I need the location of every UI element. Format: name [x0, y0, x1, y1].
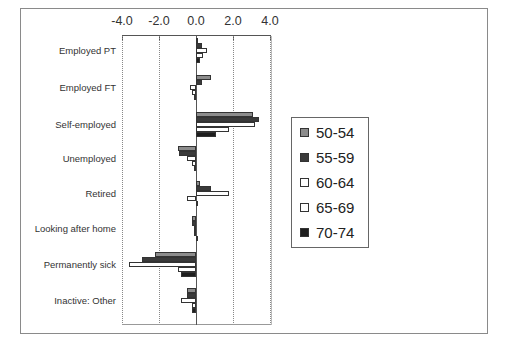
legend: 50-5455-5960-6465-6970-74	[291, 117, 369, 248]
legend-item: 60-64	[300, 174, 354, 191]
bar	[192, 308, 196, 313]
category-label: Looking after home	[35, 223, 116, 234]
category-label: Unemployed	[63, 153, 116, 164]
legend-item: 70-74	[300, 224, 354, 241]
bar	[196, 201, 198, 206]
category-label: Permanently sick	[44, 259, 116, 270]
bar	[196, 58, 200, 63]
bar	[196, 191, 229, 196]
bar	[187, 196, 196, 201]
legend-label: 50-54	[316, 124, 354, 141]
legend-label: 60-64	[316, 174, 354, 191]
legend-swatch-icon	[300, 228, 309, 237]
legend-label: 55-59	[316, 149, 354, 166]
gridline	[122, 36, 123, 325]
bar	[196, 132, 216, 137]
x-tick-label: 4.0	[261, 14, 278, 28]
bar	[194, 166, 196, 171]
category-label: Employed PT	[59, 45, 116, 56]
category-label: Self-employed	[55, 119, 116, 130]
legend-item: 65-69	[300, 199, 354, 216]
bar	[194, 95, 196, 100]
category-label: Retired	[85, 188, 116, 199]
legend-swatch-icon	[300, 178, 309, 187]
legend-label: 65-69	[316, 199, 354, 216]
x-tick-label: -2.0	[148, 14, 170, 28]
chart-frame	[20, 8, 488, 334]
legend-swatch-icon	[300, 203, 309, 212]
category-label: Employed FT	[60, 82, 117, 93]
x-tick-label: -4.0	[111, 14, 133, 28]
plot-right-border	[271, 36, 272, 325]
bar	[196, 236, 198, 241]
plot-bottom-border	[122, 324, 272, 325]
legend-swatch-icon	[300, 153, 309, 162]
legend-item: 55-59	[300, 149, 354, 166]
bar	[196, 80, 202, 85]
gridline	[159, 36, 160, 325]
legend-label: 70-74	[316, 224, 354, 241]
category-label: Inactive: Other	[54, 295, 116, 306]
bar	[181, 272, 196, 277]
legend-item: 50-54	[300, 124, 354, 141]
gridline	[233, 36, 234, 325]
x-tick-label: 0.0	[187, 14, 204, 28]
legend-swatch-icon	[300, 128, 309, 137]
x-tick-label: 2.0	[224, 14, 241, 28]
